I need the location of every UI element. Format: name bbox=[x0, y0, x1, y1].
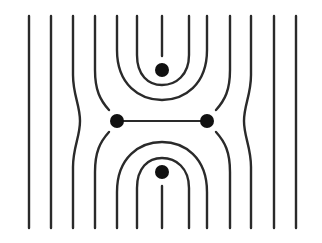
field-line-right-lower bbox=[216, 132, 230, 228]
field-line-bulge-left bbox=[73, 16, 80, 228]
field-line-left-lower bbox=[95, 132, 109, 228]
node-left bbox=[110, 114, 124, 128]
node-top bbox=[155, 63, 169, 77]
field-line-right-upper bbox=[216, 16, 230, 110]
node-bottom bbox=[155, 165, 169, 179]
field-line-left-upper bbox=[95, 16, 109, 110]
field-line-bulge-right bbox=[244, 16, 251, 228]
field-line-diagram bbox=[0, 0, 322, 243]
node-right bbox=[200, 114, 214, 128]
